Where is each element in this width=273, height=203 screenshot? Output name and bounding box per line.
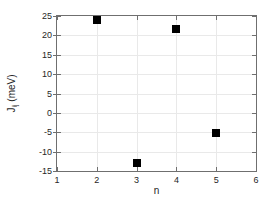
x-axis-tick-top bbox=[57, 16, 58, 20]
y-axis-tick-right bbox=[252, 132, 256, 133]
x-axis-tick bbox=[137, 167, 138, 171]
y-axis-title-unit: (meV) bbox=[6, 74, 17, 104]
y-axis-tick-right bbox=[252, 94, 256, 95]
x-axis-tick bbox=[256, 167, 257, 171]
x-axis-title-text: n bbox=[154, 185, 160, 196]
data-point-marker bbox=[133, 159, 141, 167]
y-axis-tick-right bbox=[252, 113, 256, 114]
y-axis-tick-label: 0 bbox=[47, 108, 52, 117]
gridline-horizontal bbox=[57, 55, 256, 56]
y-axis-tick-label: 25 bbox=[42, 12, 52, 21]
gridline-vertical bbox=[216, 16, 217, 171]
y-axis-tick-label: 20 bbox=[42, 31, 52, 40]
y-axis-tick-right bbox=[252, 74, 256, 75]
y-axis-tick-label: 15 bbox=[42, 50, 52, 59]
data-point-marker bbox=[172, 25, 180, 33]
y-axis-tick-right bbox=[252, 171, 256, 172]
x-axis-tick bbox=[176, 167, 177, 171]
x-axis-tick-label: 2 bbox=[94, 176, 99, 185]
y-axis-tick-inner bbox=[57, 171, 61, 172]
gridline-vertical bbox=[137, 16, 138, 171]
x-axis-tick bbox=[57, 167, 58, 171]
x-axis-title: n bbox=[56, 186, 257, 196]
x-axis-tick-label: 1 bbox=[54, 176, 59, 185]
x-axis-tick-top bbox=[137, 16, 138, 20]
x-axis-tick-label: 5 bbox=[214, 176, 219, 185]
x-axis-tick-label: 4 bbox=[174, 176, 179, 185]
gridline-horizontal bbox=[57, 35, 256, 36]
gridline-horizontal bbox=[57, 74, 256, 75]
y-axis-tick-inner bbox=[57, 132, 61, 133]
y-axis-tick-label: 10 bbox=[42, 70, 52, 79]
y-axis-title-subscript: ij bbox=[11, 104, 18, 107]
y-axis-tick-inner bbox=[57, 35, 61, 36]
y-axis-tick-right bbox=[252, 35, 256, 36]
gridline-horizontal bbox=[57, 113, 256, 114]
x-axis-tick-top bbox=[216, 16, 217, 20]
gridline-horizontal bbox=[57, 152, 256, 153]
y-axis-tick-inner bbox=[57, 74, 61, 75]
x-axis-tick-top bbox=[176, 16, 177, 20]
y-axis-tick-inner bbox=[57, 113, 61, 114]
y-axis-tick-inner bbox=[57, 55, 61, 56]
gridline-vertical bbox=[97, 16, 98, 171]
x-axis-tick-label: 3 bbox=[134, 176, 139, 185]
y-axis-title-symbol: J bbox=[6, 108, 17, 113]
y-axis-tick-right bbox=[252, 55, 256, 56]
y-axis-tick-right bbox=[252, 152, 256, 153]
x-axis-tick bbox=[216, 167, 217, 171]
data-point-marker bbox=[212, 129, 220, 137]
y-axis-tick-label: -15 bbox=[39, 167, 52, 176]
y-axis-tick-label: -5 bbox=[44, 128, 52, 137]
gridline-horizontal bbox=[57, 94, 256, 95]
gridline-horizontal bbox=[57, 132, 256, 133]
y-axis-tick-inner bbox=[57, 152, 61, 153]
x-axis-tick-top bbox=[256, 16, 257, 20]
data-point-marker bbox=[93, 16, 101, 24]
gridline-vertical bbox=[176, 16, 177, 171]
chart-figure: -15-10-50510152025123456 n Jij (meV) bbox=[0, 0, 273, 203]
x-axis-tick bbox=[97, 167, 98, 171]
x-axis-tick-label: 6 bbox=[253, 176, 258, 185]
y-axis-tick-inner bbox=[57, 94, 61, 95]
y-axis-tick-label: 5 bbox=[47, 89, 52, 98]
plot-area: -15-10-50510152025123456 bbox=[56, 15, 257, 172]
y-axis-tick-label: -10 bbox=[39, 147, 52, 156]
y-axis-title: Jij (meV) bbox=[4, 15, 20, 172]
